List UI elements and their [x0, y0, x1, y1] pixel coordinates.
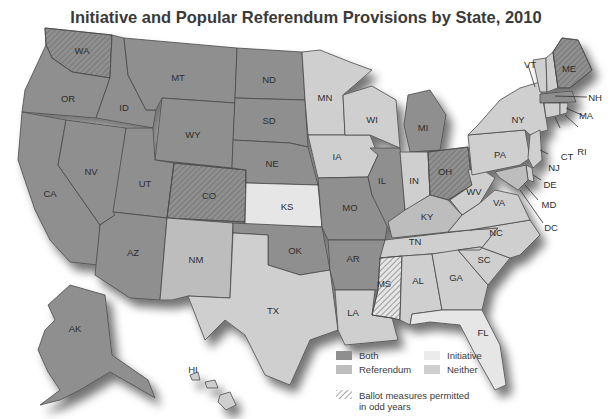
label-nh: NH — [588, 92, 602, 103]
label-ia: IA — [333, 151, 343, 162]
label-oh: OH — [438, 166, 452, 177]
swatch-hatch-icon — [336, 390, 352, 399]
label-co: CO — [202, 190, 216, 201]
label-nv: NV — [84, 166, 98, 177]
label-ms: MS — [377, 278, 391, 289]
us-map: WA OR CA ID NV MT WY UT CO AZ NM ND SD N… — [0, 0, 612, 419]
label-il: IL — [378, 175, 386, 186]
state-ia[interactable] — [308, 135, 378, 178]
label-id: ID — [119, 102, 129, 113]
state-ri[interactable] — [560, 103, 568, 115]
legend-initiative: Initiative — [424, 350, 482, 361]
label-nc: NC — [489, 227, 503, 238]
legend-label-neither: Neither — [447, 364, 478, 375]
label-in: IN — [409, 175, 419, 186]
label-mi: MI — [418, 122, 429, 133]
legend-neither: Neither — [424, 364, 478, 375]
label-ct: CT — [561, 151, 574, 162]
label-ca: CA — [43, 188, 57, 199]
label-ga: GA — [449, 272, 463, 283]
state-ak[interactable] — [38, 285, 155, 405]
label-tx: TX — [267, 305, 280, 316]
swatch-both — [336, 351, 352, 360]
legend-label-both: Both — [359, 350, 379, 361]
legend-label-odd-years: Ballot measures permitted — [359, 390, 469, 401]
swatch-initiative — [424, 351, 440, 360]
label-ri: RI — [577, 146, 587, 157]
label-wa: WA — [75, 45, 91, 56]
label-al: AL — [412, 275, 424, 286]
state-ma[interactable] — [540, 91, 576, 103]
label-mo: MO — [342, 202, 357, 213]
label-pa: PA — [494, 149, 507, 160]
label-wy: WY — [185, 129, 201, 140]
label-dc: DC — [544, 222, 558, 233]
legend-both: Both — [336, 350, 379, 361]
label-mt: MT — [171, 72, 185, 83]
label-ne: NE — [265, 158, 278, 169]
state-ny[interactable] — [468, 82, 548, 135]
legend-label-odd-years-2: in odd years — [359, 401, 411, 412]
state-nj[interactable] — [528, 130, 542, 168]
label-hi: HI — [188, 364, 198, 375]
label-ma: MA — [579, 110, 594, 121]
label-ut: UT — [139, 178, 152, 189]
label-ok: OK — [288, 245, 302, 256]
swatch-referendum — [336, 365, 352, 374]
label-la: LA — [347, 307, 359, 318]
label-ky: KY — [421, 211, 434, 222]
label-me: ME — [562, 63, 576, 74]
label-nd: ND — [262, 74, 276, 85]
label-va: VA — [493, 197, 506, 208]
label-ak: AK — [69, 323, 82, 334]
label-de: DE — [543, 179, 556, 190]
label-ny: NY — [511, 114, 525, 125]
label-or: OR — [61, 93, 75, 104]
label-wv: WV — [466, 186, 482, 197]
label-ar: AR — [346, 253, 359, 264]
legend-label-initiative: Initiative — [447, 350, 482, 361]
label-wi: WI — [366, 114, 378, 125]
label-sc: SC — [477, 254, 490, 265]
swatch-neither — [424, 365, 440, 374]
label-sd: SD — [262, 115, 275, 126]
label-az: AZ — [127, 247, 139, 258]
legend-referendum: Referendum — [336, 364, 411, 375]
legend-label-referendum: Referendum — [359, 364, 411, 375]
state-hi[interactable] — [190, 372, 236, 410]
label-ks: KS — [281, 201, 294, 212]
label-mn: MN — [318, 92, 333, 103]
label-vt: VT — [524, 59, 536, 70]
legend-odd-years: Ballot measures permitted in odd years — [336, 390, 469, 412]
label-fl: FL — [477, 327, 488, 338]
label-nm: NM — [189, 254, 204, 265]
label-nj: NJ — [548, 162, 560, 173]
label-md: MD — [542, 199, 557, 210]
state-ct[interactable] — [544, 103, 560, 118]
label-tn: TN — [409, 236, 422, 247]
